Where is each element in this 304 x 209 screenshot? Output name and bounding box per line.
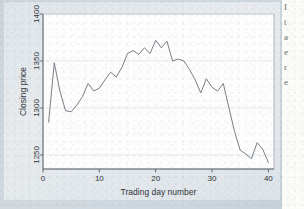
y-tick-label: 1350 (32, 52, 41, 70)
y-tick-label: 1300 (32, 98, 41, 116)
x-tick-label: 0 (41, 174, 46, 183)
document-line: a (284, 30, 304, 45)
document-line: I (284, 0, 304, 15)
line-chart[interactable]: 1250130013501400 010203040 Closing price… (4, 2, 280, 200)
figure-panel: 1250130013501400 010203040 Closing price… (4, 2, 280, 200)
document-line: e (284, 75, 304, 90)
plot-frame (43, 14, 274, 169)
y-tick-label: 1400 (32, 5, 41, 23)
document-text-column: I t a e r e (282, 0, 304, 209)
x-tick-label: 30 (208, 174, 217, 183)
document-line: e (284, 45, 304, 60)
x-axis: 010203040 (41, 169, 274, 183)
y-axis: 1250130013501400 (32, 5, 43, 169)
y-tick-label: 1250 (32, 145, 41, 163)
x-tick-label: 10 (95, 174, 104, 183)
x-tick-label: 40 (264, 174, 273, 183)
x-tick-label: 20 (151, 174, 160, 183)
scanned-page: 1250130013501400 010203040 Closing price… (0, 0, 304, 209)
document-line: r (284, 60, 304, 75)
x-axis-title: Trading day number (121, 187, 197, 197)
document-line: t (284, 15, 304, 30)
chart-plot-area[interactable]: 1250130013501400 010203040 Closing price… (4, 2, 280, 200)
y-axis-title: Closing price (18, 67, 28, 116)
